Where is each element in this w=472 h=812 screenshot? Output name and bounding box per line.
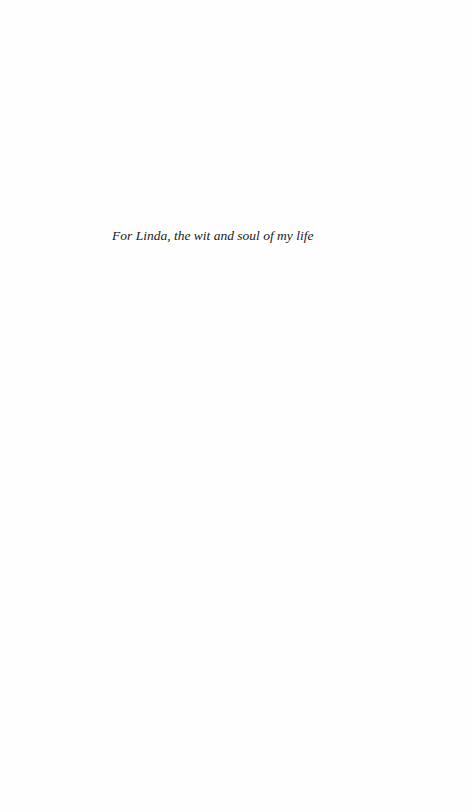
dedication-text: For Linda, the wit and soul of my life <box>112 227 313 245</box>
book-page: For Linda, the wit and soul of my life <box>0 0 472 812</box>
